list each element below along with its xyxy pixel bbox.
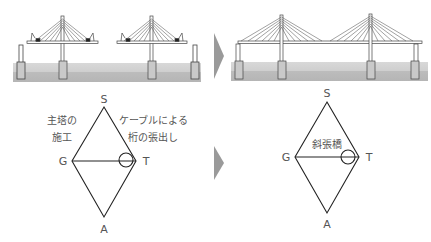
note-tower-line2: 施工 (52, 131, 72, 143)
vertex-s-after: S (324, 87, 331, 100)
vertex-a-before: A (100, 223, 108, 236)
vertex-g-before: G (59, 155, 68, 168)
top-arrow (214, 33, 224, 79)
highlight-circle-before (119, 153, 133, 167)
end-pier-right (191, 45, 199, 79)
cables (241, 16, 413, 41)
vertex-a-after: A (323, 218, 331, 231)
vertex-s-before: S (101, 93, 108, 106)
bottom-arrow (214, 146, 224, 180)
vertex-g-after: G (282, 151, 291, 164)
water-right (231, 62, 428, 81)
note-tower-line1: 主塔の (47, 114, 77, 126)
note-cable-line2: 桁の張出し (128, 131, 178, 143)
water-left (13, 63, 201, 82)
note-cable-line1: ケーブルによる (119, 114, 188, 126)
diagram-after: S G T A 斜張橋 (282, 87, 373, 231)
bridge-under-construction (13, 16, 201, 82)
bridge-transition-figure: S G T A 主塔の 施工 ケーブルによる 桁の張出し S G T A 斜張橋 (0, 0, 431, 242)
vertex-t-after: T (365, 151, 373, 164)
vertex-t-before: T (142, 155, 150, 168)
deck (238, 41, 422, 44)
cable-stayed-bridge-label: 斜張橋 (312, 138, 342, 150)
diagram-before: S G T A 主塔の 施工 ケーブルによる 桁の張出し (47, 93, 188, 236)
completed-bridge (231, 14, 428, 81)
end-pier-left (17, 45, 25, 79)
